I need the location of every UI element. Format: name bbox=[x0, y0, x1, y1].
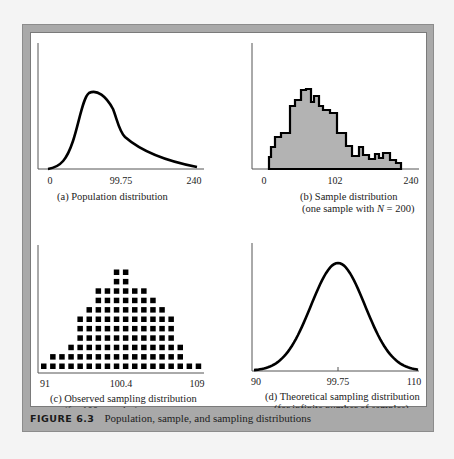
sample-mean-dot bbox=[159, 335, 165, 341]
panel-caption-line2: (for 100 samples) bbox=[64, 405, 139, 408]
sample-mean-dot bbox=[141, 326, 147, 332]
panel-caption: (c) Observed sampling distribution bbox=[50, 393, 197, 405]
sample-mean-dot bbox=[96, 317, 102, 323]
sample-mean-dot bbox=[96, 364, 102, 370]
sample-mean-dot bbox=[77, 326, 83, 332]
sample-mean-dot bbox=[150, 317, 156, 323]
sample-mean-dot bbox=[87, 326, 93, 332]
sample-mean-dot bbox=[141, 288, 147, 294]
sample-mean-dot bbox=[123, 326, 128, 332]
sample-mean-dot bbox=[77, 345, 83, 351]
sample-mean-dot bbox=[168, 335, 174, 341]
sample-mean-dot bbox=[96, 298, 102, 304]
sample-mean-dot bbox=[114, 317, 120, 323]
panel-caption: (d) Theoretical sampling distribution bbox=[265, 391, 420, 403]
sample-mean-dot bbox=[114, 288, 120, 294]
tick-label: 99.75 bbox=[327, 376, 350, 387]
sample-mean-dot bbox=[105, 326, 111, 332]
sample-mean-dot bbox=[87, 307, 93, 313]
sample-mean-dot bbox=[132, 326, 138, 332]
sample-mean-dot bbox=[96, 288, 102, 294]
sample-mean-dot bbox=[196, 364, 202, 370]
sample-mean-dot bbox=[132, 307, 138, 313]
figure-caption: FIGURE 6.3Population, sample, and sampli… bbox=[30, 412, 427, 428]
sample-mean-dot bbox=[105, 335, 111, 341]
population-curve bbox=[48, 92, 197, 169]
sample-mean-dot bbox=[168, 326, 174, 332]
figure-label: FIGURE 6.3 bbox=[30, 413, 94, 424]
sample-mean-dot bbox=[114, 270, 120, 276]
sample-mean-dot bbox=[77, 364, 83, 370]
normal-curve bbox=[254, 263, 418, 370]
sample-mean-dot bbox=[132, 335, 138, 341]
sample-mean-dot bbox=[87, 317, 93, 323]
dot-plot bbox=[41, 270, 201, 370]
sample-mean-dot bbox=[141, 298, 147, 304]
sample-mean-dot bbox=[105, 317, 111, 323]
sample-mean-dot bbox=[159, 307, 165, 313]
sample-mean-dot bbox=[123, 279, 128, 285]
sample-mean-dot bbox=[114, 364, 120, 370]
sample-mean-dot bbox=[114, 279, 120, 285]
sample-mean-dot bbox=[150, 364, 156, 370]
sample-mean-dot bbox=[59, 354, 64, 360]
sample-mean-dot bbox=[132, 354, 138, 360]
sample-mean-dot bbox=[68, 354, 74, 360]
tick-label: 240 bbox=[404, 175, 419, 186]
sample-mean-dot bbox=[59, 364, 64, 370]
sample-mean-dot bbox=[168, 364, 174, 370]
tick-label: 90 bbox=[251, 376, 261, 387]
sample-mean-dot bbox=[168, 317, 174, 323]
sample-mean-dot bbox=[150, 345, 156, 351]
tick-label: 240 bbox=[187, 175, 202, 186]
caption-text: (one sample with bbox=[302, 203, 377, 215]
sample-mean-dot bbox=[178, 364, 184, 370]
sample-mean-dot bbox=[50, 364, 56, 370]
sample-mean-dot bbox=[132, 298, 138, 304]
sample-mean-dot bbox=[159, 345, 165, 351]
sample-mean-dot bbox=[96, 307, 102, 313]
tick-label: 102 bbox=[328, 175, 343, 186]
sample-mean-dot bbox=[159, 326, 165, 332]
sample-mean-dot bbox=[123, 288, 128, 294]
tick-label: 91 bbox=[40, 378, 50, 389]
sample-mean-dot bbox=[87, 364, 93, 370]
sample-mean-dot bbox=[141, 364, 147, 370]
sample-mean-dot bbox=[150, 326, 156, 332]
sample-mean-dot bbox=[87, 354, 93, 360]
sample-mean-dot bbox=[168, 354, 174, 360]
sample-mean-dot bbox=[77, 317, 83, 323]
sample-mean-dot bbox=[105, 288, 111, 294]
sample-mean-dot bbox=[96, 326, 102, 332]
sample-mean-dot bbox=[132, 345, 138, 351]
panel-a: 0 99.75 240 (a) Population distribution bbox=[38, 43, 204, 203]
sample-mean-dot bbox=[87, 345, 93, 351]
sample-mean-dot bbox=[96, 335, 102, 341]
panel-b: 0 102 240 (b) Sample distribution (one s… bbox=[252, 43, 419, 215]
sample-mean-dot bbox=[105, 307, 111, 313]
tick-label: 0 bbox=[48, 175, 53, 186]
panel-c: 91 100.4 109 (c) Observed sampling distr… bbox=[38, 245, 205, 408]
sample-mean-dot bbox=[141, 345, 147, 351]
sample-mean-dot bbox=[141, 354, 147, 360]
sample-mean-dot bbox=[114, 307, 120, 313]
sample-mean-dot bbox=[123, 364, 128, 370]
sample-mean-dot bbox=[123, 307, 128, 313]
sample-mean-dot bbox=[114, 326, 120, 332]
tick-label: 110 bbox=[407, 376, 422, 387]
sample-mean-dot bbox=[141, 317, 147, 323]
tick-label: 0 bbox=[262, 175, 267, 186]
sample-mean-dot bbox=[132, 364, 138, 370]
sample-mean-dot bbox=[123, 335, 128, 341]
caption-text: = 200) bbox=[384, 203, 415, 215]
sample-mean-dot bbox=[50, 354, 56, 360]
panel-d: 90 99.75 110 (d) Theoretical sampling di… bbox=[251, 243, 421, 408]
sample-mean-dot bbox=[178, 354, 184, 360]
sample-mean-dot bbox=[114, 354, 120, 360]
sample-mean-dot bbox=[178, 345, 184, 351]
figure-canvas: 0 99.75 240 (a) Population distribution … bbox=[31, 33, 428, 408]
tick-label: 109 bbox=[190, 378, 205, 389]
panel-caption: (b) Sample distribution bbox=[300, 191, 398, 203]
figure-panel: 0 99.75 240 (a) Population distribution … bbox=[30, 32, 427, 407]
sample-mean-dot bbox=[150, 354, 156, 360]
